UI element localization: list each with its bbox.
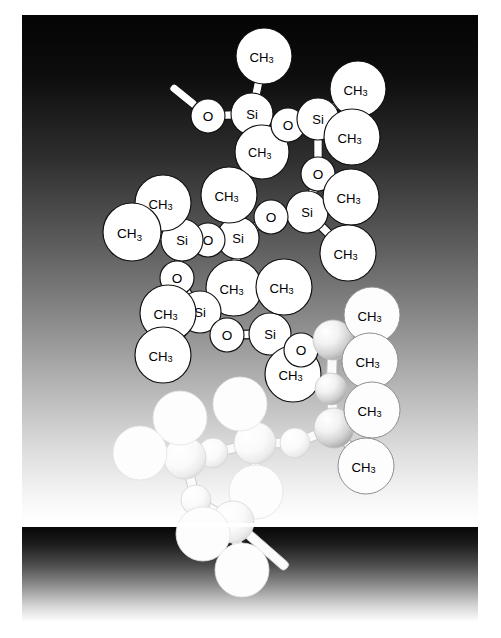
atom-ch3: CH3: [201, 167, 257, 223]
atom-ch3: CH3: [330, 61, 386, 117]
atom-o: O: [254, 200, 288, 234]
ch3-sphere: [320, 225, 376, 281]
atom-ch3: CH3: [344, 382, 400, 438]
atom-o: O: [191, 99, 225, 133]
molecular-figure: OSiCH3CH3OSiCH3CH3OSiCH3CH3OSiCH3CH3OSiC…: [0, 0, 501, 638]
o-sphere: [254, 200, 288, 234]
ch3-sphere: [344, 382, 400, 438]
atom-ch3: [213, 377, 267, 431]
ch3-sphere: [103, 203, 161, 261]
ch3-sphere: [256, 259, 312, 315]
atom-ch3: CH3: [320, 225, 376, 281]
ch3-sphere: [338, 438, 394, 494]
ch3-sphere: [324, 109, 380, 165]
o-sphere: [315, 373, 347, 405]
atom-o: O: [210, 318, 244, 352]
atom-ch3: CH3: [236, 28, 292, 84]
atom-ch3: CH3: [324, 109, 380, 165]
o-sphere: [191, 99, 225, 133]
ch3-sphere: [213, 377, 267, 431]
o-sphere: [210, 318, 244, 352]
ch3-sphere: [113, 426, 167, 480]
atom-ch3: [113, 426, 167, 480]
atom-o: [280, 428, 310, 458]
ch3-sphere: [330, 61, 386, 117]
atom-ch3: CH3: [323, 169, 379, 225]
atom-o: [315, 373, 347, 405]
ch3-sphere: [201, 167, 257, 223]
molecule-canvas: OSiCH3CH3OSiCH3CH3OSiCH3CH3OSiCH3CH3OSiC…: [0, 0, 501, 638]
ch3-sphere: [342, 333, 398, 389]
atom-si: Si: [286, 191, 328, 233]
ch3-sphere: [215, 543, 269, 597]
o-sphere: [280, 428, 310, 458]
atom-ch3: CH3: [342, 333, 398, 389]
atom-ch3: [215, 543, 269, 597]
atom-ch3: CH3: [338, 438, 394, 494]
atom-ch3: CH3: [135, 327, 191, 383]
atom-ch3: CH3: [103, 203, 161, 261]
atom-ch3: CH3: [256, 259, 312, 315]
ch3-sphere: [135, 327, 191, 383]
ch3-sphere: [323, 169, 379, 225]
ch3-sphere: [236, 28, 292, 84]
si-sphere: [286, 191, 328, 233]
